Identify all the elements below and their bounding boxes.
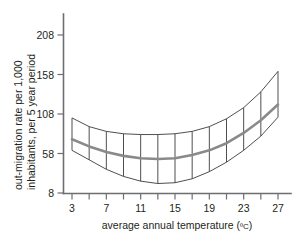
y-axis-tick-labels: 858108158208 xyxy=(36,29,54,199)
x-tick-label: 19 xyxy=(203,202,215,214)
x-tick-label: 3 xyxy=(69,202,75,214)
x-axis-ticks xyxy=(72,194,278,200)
x-tick-label: 7 xyxy=(103,202,109,214)
x-tick-label: 27 xyxy=(272,202,284,214)
x-axis-title-close: ) xyxy=(249,219,253,231)
x-axis-title-text: average annual temperature ( xyxy=(102,219,241,231)
y-tick-label: 58 xyxy=(42,148,54,160)
confidence-band xyxy=(72,71,278,183)
y-tick-label: 8 xyxy=(48,187,54,199)
y-tick-label: 158 xyxy=(36,69,54,81)
x-axis-unit-text: ºC xyxy=(240,222,249,231)
x-axis-title: average annual temperature (ºC) xyxy=(102,219,253,231)
x-axis-tick-labels: 371115192327 xyxy=(69,202,284,214)
x-tick-label: 15 xyxy=(169,202,181,214)
y-tick-label: 208 xyxy=(36,29,54,41)
x-tick-label: 23 xyxy=(238,202,250,214)
x-tick-label: 11 xyxy=(135,202,146,214)
y-axis-ticks xyxy=(58,35,64,193)
plot-area: 858108158208 371115192327 average annual… xyxy=(0,0,300,238)
chart-figure: out-migration rate per 1,000 inhabitants… xyxy=(0,0,300,238)
svg-text:average annual temperature (ºC: average annual temperature (ºC) xyxy=(102,219,253,231)
y-tick-label: 108 xyxy=(36,108,54,120)
